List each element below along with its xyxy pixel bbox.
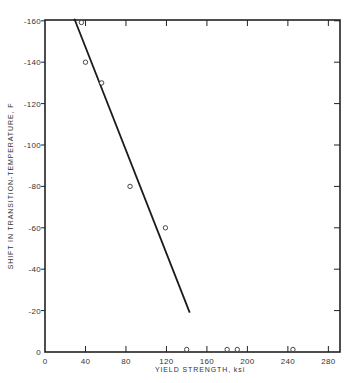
data-point-marker: [184, 347, 188, 351]
data-points: [79, 20, 295, 351]
y-tick-label: -40: [29, 265, 42, 274]
y-tick-label: -160: [24, 17, 41, 26]
regression-line: [74, 19, 189, 313]
x-tick-label: 40: [81, 357, 91, 366]
y-tick-label: -120: [24, 100, 41, 109]
x-axis-ticks: 04080120160200240280: [43, 20, 336, 366]
data-point-marker: [163, 226, 167, 230]
y-axis-ticks: 0-20-40-60-80-100-120-140-160: [24, 17, 340, 357]
x-tick-label: 280: [321, 357, 335, 366]
x-tick-label: 120: [159, 357, 173, 366]
data-point-marker: [83, 60, 87, 64]
chart: 04080120160200240280 0-20-40-60-80-100-1…: [0, 0, 357, 383]
data-point-marker: [225, 347, 229, 351]
y-tick-label: 0: [36, 348, 41, 357]
y-tick-label: -80: [29, 182, 42, 191]
data-point-marker: [128, 184, 132, 188]
plot-frame: [45, 20, 340, 352]
x-tick-label: 240: [281, 357, 295, 366]
x-tick-label: 160: [200, 357, 214, 366]
data-point-marker: [235, 347, 239, 351]
x-tick-label: 0: [43, 357, 48, 366]
y-tick-label: -140: [24, 58, 41, 67]
plot-border: [45, 20, 340, 352]
y-axis-title: SHIFT IN TRANSITION-TEMPERATURE, F: [7, 103, 14, 270]
data-point-marker: [99, 81, 103, 85]
trend-line: [74, 19, 189, 313]
data-point-marker: [79, 20, 83, 24]
data-point-marker: [291, 347, 295, 351]
y-tick-label: -100: [24, 141, 41, 150]
x-axis-title: YIELD STRENGTH, ksi: [155, 366, 245, 373]
x-tick-label: 80: [121, 357, 131, 366]
x-tick-label: 200: [240, 357, 254, 366]
y-tick-label: -20: [29, 307, 42, 316]
y-tick-label: -60: [29, 224, 42, 233]
